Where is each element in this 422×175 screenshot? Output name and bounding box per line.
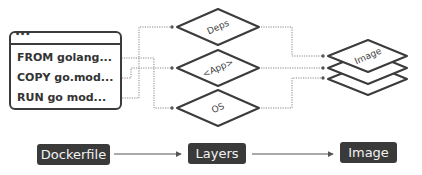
flow-step-image: Image [340,142,397,163]
dockerfile-line-copy: COPY go.mod... [17,71,113,84]
image-stack-icon [328,40,407,95]
dockerfile-line-from: FROM golang... [17,51,112,64]
layers-to-image-connectors [261,27,323,108]
flow-step-dockerfile: Dockerfile [37,144,110,165]
dockerfile-line-run: RUN go mod... [17,91,106,104]
window-titlebar: ••• [11,33,120,45]
flow-step-layers: Layers [188,143,246,164]
layer-diamond-deps: Deps [177,9,259,45]
dockerfile-window: ••• FROM golang... COPY go.mod... RUN go… [9,31,122,110]
layer-diamond-os: OS [177,90,259,126]
layer-diamond-app: <App> [177,50,259,86]
window-dots-icon: ••• [15,30,30,39]
